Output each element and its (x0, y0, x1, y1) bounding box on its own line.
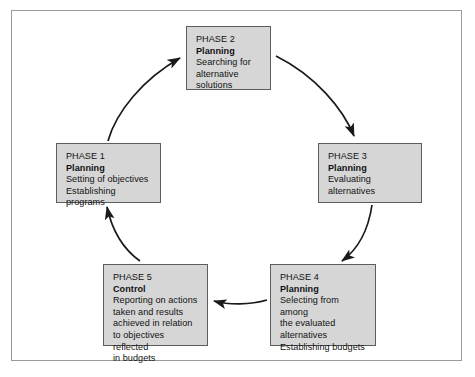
phase-1-function: Planning (66, 163, 152, 175)
phase-box-3: PHASE 3 Planning Evaluating alternatives (318, 143, 422, 203)
phase-5-function: Control (113, 284, 199, 296)
phase-4-description: Selecting from among the evaluated alter… (280, 295, 367, 353)
phase-2-title: PHASE 2 (196, 34, 262, 46)
phase-1-title: PHASE 1 (66, 151, 152, 163)
phase-1-description: Setting of objectives Establishing progr… (66, 174, 152, 209)
phase-3-function: Planning (328, 163, 413, 175)
diagram-canvas: PHASE 1 Planning Setting of objectives E… (0, 0, 475, 377)
phase-4-function: Planning (280, 284, 367, 296)
phase-5-description: Reporting on actions taken and results a… (113, 295, 199, 365)
phase-2-function: Planning (196, 46, 262, 58)
phase-box-1: PHASE 1 Planning Setting of objectives E… (56, 143, 161, 203)
phase-4-title: PHASE 4 (280, 272, 367, 284)
phase-3-title: PHASE 3 (328, 151, 413, 163)
phase-box-5: PHASE 5 Control Reporting on actions tak… (103, 264, 208, 346)
phase-5-title: PHASE 5 (113, 272, 199, 284)
phase-box-4: PHASE 4 Planning Selecting from among th… (270, 264, 376, 346)
phase-2-description: Searching for alternative solutions (196, 57, 262, 92)
phase-3-description: Evaluating alternatives (328, 174, 413, 197)
phase-box-2: PHASE 2 Planning Searching for alternati… (186, 26, 271, 90)
